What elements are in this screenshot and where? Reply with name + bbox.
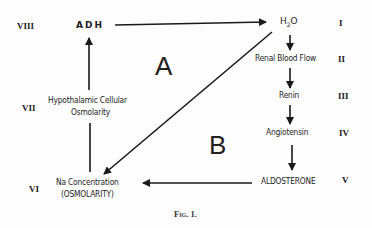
node-h2o: H2O: [280, 16, 298, 28]
node-na-concentration-line2: (OSMOLARITY): [61, 189, 114, 199]
level-ii-label: II: [338, 54, 345, 64]
node-aldosterone: ALDOSTERONE: [261, 176, 315, 186]
node-renin: Renin: [279, 90, 299, 100]
region-a-label: A: [155, 51, 172, 82]
level-vii-label: VII: [22, 103, 36, 113]
level-iv-label: IV: [339, 128, 349, 138]
arrow-adh-to-h2o: [115, 22, 266, 25]
arrow-h2o-to-na: [104, 32, 272, 174]
node-hypothalamic-line2: Osmolarity: [71, 107, 110, 117]
node-renal-blood-flow: Renal Blood Flow: [255, 53, 316, 63]
arrows-layer: [0, 0, 372, 228]
figure-caption: Fig. 1.: [174, 209, 197, 219]
node-hypothalamic-line1: Hypothalamic Cellular: [48, 95, 127, 105]
h2o-o: O: [291, 16, 298, 26]
h2o-h: H: [280, 16, 287, 26]
level-v-label: V: [342, 175, 349, 185]
level-vi-label: VI: [29, 184, 39, 194]
region-b-label: B: [209, 130, 226, 161]
level-iii-label: III: [338, 91, 349, 101]
diagram-canvas: VIII VII VI I II III IV V ADH H2O Renal …: [0, 0, 372, 228]
node-angiotensin: Angiotensin: [266, 127, 308, 137]
level-viii-label: VIII: [17, 21, 34, 31]
node-na-concentration-line1: Na Concentration: [56, 177, 119, 187]
node-adh: ADH: [76, 20, 104, 30]
level-i-label: I: [339, 18, 343, 28]
